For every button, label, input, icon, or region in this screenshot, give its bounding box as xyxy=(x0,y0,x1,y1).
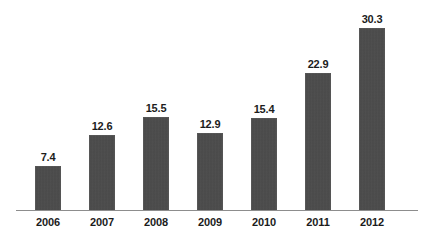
bar-group[interactable]: 22.9 xyxy=(305,58,331,211)
bar-value-label: 15.4 xyxy=(254,103,275,115)
bar-rect[interactable] xyxy=(89,135,115,211)
x-tick-label-2008: 2008 xyxy=(131,216,181,229)
bar-group[interactable]: 12.6 xyxy=(89,120,115,211)
plot-area: 7.4 12.6 15.5 12.9 15.4 22.9 30.3 xyxy=(0,0,430,211)
bar-value-label: 15.5 xyxy=(146,102,167,114)
x-tick-label-2010: 2010 xyxy=(239,216,289,229)
bar-rect[interactable] xyxy=(251,118,277,211)
bar-value-label: 12.9 xyxy=(200,118,221,130)
bar-rect[interactable] xyxy=(359,28,385,211)
bar-chart: 7.4 12.6 15.5 12.9 15.4 22.9 30.3 xyxy=(0,0,430,236)
x-axis-line xyxy=(16,210,418,211)
x-tick-label-2006: 2006 xyxy=(23,216,73,229)
bar-group[interactable]: 30.3 xyxy=(359,13,385,211)
bar-rect[interactable] xyxy=(143,117,169,211)
x-tick-label-2012: 2012 xyxy=(347,216,397,229)
bar-value-label: 30.3 xyxy=(362,13,383,25)
bar-value-label: 12.6 xyxy=(92,120,113,132)
bar-group[interactable]: 7.4 xyxy=(35,151,61,211)
bar-value-label: 22.9 xyxy=(308,58,329,70)
bar-group[interactable]: 12.9 xyxy=(197,118,223,211)
bar-rect[interactable] xyxy=(35,166,61,211)
x-tick-label-2007: 2007 xyxy=(77,216,127,229)
x-tick-label-2011: 2011 xyxy=(293,216,343,229)
bar-group[interactable]: 15.5 xyxy=(143,102,169,211)
x-tick-label-2009: 2009 xyxy=(185,216,235,229)
bar-group[interactable]: 15.4 xyxy=(251,103,277,211)
bar-value-label: 7.4 xyxy=(41,151,56,163)
bar-rect[interactable] xyxy=(197,133,223,211)
bar-rect[interactable] xyxy=(305,73,331,211)
x-axis-labels: 2006 2007 2008 2009 2010 2011 2012 xyxy=(0,213,430,236)
